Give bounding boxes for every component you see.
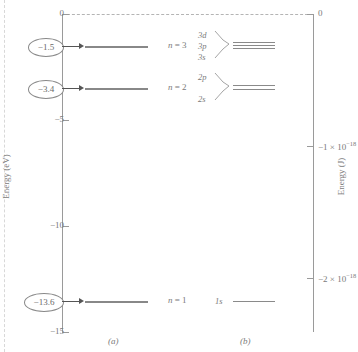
right-axis-tick-label-minus1e18: −1 × 10−18 [318,141,356,152]
level-eq-1: = [173,295,183,305]
orbital-label-2s: 2s [198,95,206,104]
callout-arrow-line-n2 [62,88,79,89]
right-axis-tick-mantissa-1: −1 × 10 [318,142,346,152]
level-eq-2: = [173,82,183,92]
level-value-2: 2 [182,82,187,92]
level-value-3: 3 [182,40,187,50]
sublevel-line-3d [233,42,275,43]
orbital-label-1s: 1s [215,297,223,306]
level-label-n1: n = 1 [168,296,187,305]
right-axis-tick-mantissa-2: −2 × 10 [318,274,346,284]
level-line-n3 [85,46,148,48]
level-eq-3: = [173,40,183,50]
right-axis-tick-minus1e18 [307,146,314,147]
callout-arrow-line-n3 [62,46,79,47]
callout-arrow-head-n3 [79,43,84,49]
callout-arrow-head-n1 [79,298,84,304]
callout-energy-minus13point6: −13.6 [24,293,64,312]
callout-energy-minus3point4: −3.4 [28,80,64,99]
sublevel-line-2s [233,89,275,90]
level-line-n2 [85,88,148,90]
orbital-label-3d: 3d [198,31,207,40]
left-axis-line [62,14,63,332]
orbital-label-3s: 3s [198,53,206,62]
right-axis-tick-exponent-1: −18 [346,140,356,147]
right-axis-line [313,14,314,332]
brace-icon-n3 [214,28,230,60]
sublevel-line-2p [233,85,275,86]
callout-energy-minus1point5: −1.5 [28,38,64,57]
right-axis-tick-label-0: 0 [318,9,323,18]
panel-caption-b: (b) [240,337,251,346]
left-axis-title: Energy (eV) [2,154,11,199]
orbital-label-3p: 3p [198,42,207,51]
level-line-n1 [85,301,148,303]
left-axis-tick-label-minus5: −5 [54,115,64,124]
level-value-1: 1 [182,295,187,305]
right-axis-tick-label-minus2e18: −2 × 10−18 [318,273,356,284]
level-label-n2: n = 2 [168,83,187,92]
right-axis-title: Energy (J) [337,158,346,196]
panel-caption-a: (a) [108,337,119,346]
sublevel-line-1s [233,301,275,302]
sublevel-line-3s [233,48,275,49]
left-axis-tick-label-0: 0 [60,9,65,18]
sublevel-line-3p [233,45,275,46]
energy-level-diagram: 0 −5 −10 −15 0 −1 × 10−18 −2 × 10−18 Ene… [0,0,358,352]
left-axis-tick-label-minus15: −15 [50,327,64,336]
orbital-label-2p: 2p [198,73,207,82]
right-axis-tick-minus2e18 [307,278,314,279]
zero-energy-dashed-line [62,14,313,15]
level-label-n3: n = 3 [168,41,187,50]
callout-arrow-head-n2 [79,85,84,91]
callout-arrow-line-n1 [62,301,79,302]
right-axis-tick-0 [307,14,314,15]
left-axis-tick-label-minus10: −10 [50,221,64,230]
brace-icon-n2 [214,70,230,102]
right-axis-tick-exponent-2: −18 [346,272,356,279]
